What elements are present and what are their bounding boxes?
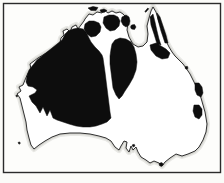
distribution-map-figure	[0, 0, 224, 183]
australia-distribution-map	[0, 0, 224, 183]
